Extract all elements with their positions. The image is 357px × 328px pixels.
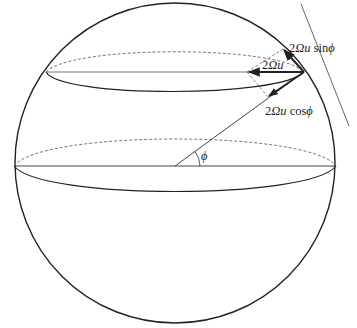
label-2-omega-u: 2Ωu bbox=[262, 58, 284, 72]
sphere-outline bbox=[15, 3, 335, 323]
equator-back-dashed bbox=[14, 139, 336, 166]
equator-front bbox=[14, 166, 336, 192]
label-2-omega-u-sin-phi: 2Ωu sinϕ bbox=[289, 41, 335, 55]
label-2-omega-u-cos-phi: 2Ωu cosϕ bbox=[265, 104, 313, 118]
coriolis-sphere-diagram: 2Ωu sinϕ 2Ωu 2Ωu cosϕ ϕ bbox=[0, 0, 357, 328]
construction-dashed-2 bbox=[247, 72, 268, 97]
latitude-angle-arc bbox=[195, 152, 200, 167]
latitude-circle-front bbox=[46, 72, 304, 92]
label-latitude-phi: ϕ bbox=[201, 149, 208, 163]
